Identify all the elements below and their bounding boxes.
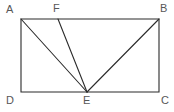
- vertex-label-a: A: [6, 4, 13, 15]
- vertex-label-e: E: [83, 95, 90, 106]
- vertex-label-c: C: [161, 95, 169, 106]
- vertex-label-b: B: [160, 3, 167, 14]
- vertex-label-f: F: [53, 3, 60, 14]
- geometry-figure: A F B D E C: [0, 0, 174, 112]
- vertex-label-d: D: [6, 95, 14, 106]
